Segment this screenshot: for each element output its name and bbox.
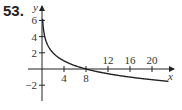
x-axis-label: x (167, 70, 173, 82)
x-tick-label: 4 (61, 72, 67, 84)
x-tick-label: 8 (83, 72, 89, 84)
y-tick-label: 6 (32, 14, 38, 26)
y-tick-label: 4 (32, 31, 38, 43)
y-axis-label: y (32, 1, 38, 13)
y-tick-label: −2 (25, 79, 37, 91)
y-tick-label: 2 (32, 47, 38, 59)
log-curve-chart: xy 48121620−2246 (0, 0, 182, 110)
axes: xy (28, 1, 174, 101)
x-tick-label: 12 (103, 54, 114, 66)
ticks: 48121620−2246 (25, 14, 158, 91)
x-tick-label: 20 (147, 54, 159, 66)
x-tick-label: 16 (125, 54, 137, 66)
